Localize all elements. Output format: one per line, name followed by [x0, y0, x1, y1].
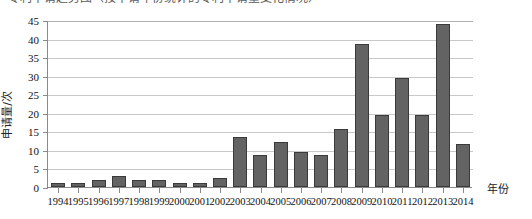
- x-axis-tick-label: 2001: [189, 196, 210, 207]
- x-axis-tick-label: 2010: [371, 196, 392, 207]
- y-axis-tick-label: 0: [34, 182, 40, 194]
- x-axis-tick-label: 2003: [230, 196, 251, 207]
- bar-slot: [230, 20, 250, 187]
- bar[interactable]: [173, 183, 187, 187]
- bar-slot: [271, 20, 291, 187]
- y-axis-tick-label: 40: [28, 34, 39, 46]
- bar-slot: [311, 20, 331, 187]
- bar[interactable]: [92, 180, 106, 187]
- bar-slot: [48, 20, 68, 187]
- bar[interactable]: [314, 155, 328, 187]
- x-axis-tick-label: 1994: [48, 196, 69, 207]
- bar[interactable]: [51, 183, 65, 187]
- bar-slot: [190, 20, 210, 187]
- bar-slot: [453, 20, 473, 187]
- x-axis-tick: [261, 188, 262, 193]
- x-axis-tick: [402, 188, 403, 193]
- bar-slot: [210, 20, 230, 187]
- bar-slot: [129, 20, 149, 187]
- y-axis-tick-label: 30: [28, 71, 39, 83]
- x-axis-tick-label: 2009: [351, 196, 372, 207]
- bar-slot: [352, 20, 372, 187]
- bars-group: [48, 20, 473, 187]
- x-axis-tick-label: 1996: [88, 196, 109, 207]
- y-axis-tick-label: 35: [28, 52, 39, 64]
- x-axis-tick: [180, 188, 181, 193]
- bar[interactable]: [193, 183, 207, 187]
- bar[interactable]: [253, 155, 267, 187]
- bar-slot: [68, 20, 88, 187]
- y-axis-tick-label: 5: [34, 163, 40, 175]
- bar[interactable]: [213, 178, 227, 187]
- y-axis-tick-label: 45: [28, 15, 39, 27]
- x-axis-tick-label: 2006: [290, 196, 311, 207]
- x-axis-tick: [422, 188, 423, 193]
- x-axis-tick: [240, 188, 241, 193]
- bar-slot: [412, 20, 432, 187]
- x-axis-tick-label: 2007: [311, 196, 332, 207]
- x-axis-tick: [58, 188, 59, 193]
- x-axis-tick-label: 1995: [68, 196, 89, 207]
- x-axis-tick: [341, 188, 342, 193]
- x-axis-tick-label: 2005: [270, 196, 291, 207]
- bar[interactable]: [395, 78, 409, 187]
- bar[interactable]: [355, 44, 369, 187]
- plot-area: 051015202530354045 199419951996199719981…: [47, 21, 472, 188]
- y-axis-tick: [43, 188, 48, 189]
- x-axis-tick: [443, 188, 444, 193]
- y-axis-tick-label: 20: [28, 108, 39, 120]
- bar[interactable]: [294, 152, 308, 187]
- bar[interactable]: [112, 176, 126, 187]
- x-axis-tick-label: 2004: [250, 196, 271, 207]
- y-axis-tick-label: 25: [28, 89, 39, 101]
- figure-caption-text: 专利申请趋势图（按申请年份统计的专利申请量变化情况）: [8, 0, 320, 5]
- x-axis-tick-label: 1997: [108, 196, 129, 207]
- y-axis-title: 申请量/次: [0, 91, 14, 139]
- x-axis-tick: [301, 188, 302, 193]
- bar[interactable]: [456, 144, 470, 187]
- x-axis-tick: [321, 188, 322, 193]
- x-axis-tick-label: 1999: [149, 196, 170, 207]
- bar[interactable]: [375, 115, 389, 187]
- bar[interactable]: [415, 115, 429, 187]
- bar[interactable]: [274, 142, 288, 187]
- x-axis-tick: [139, 188, 140, 193]
- bar-slot: [433, 20, 453, 187]
- bar[interactable]: [132, 180, 146, 187]
- bar[interactable]: [334, 129, 348, 187]
- bar-slot: [88, 20, 108, 187]
- x-axis-tick: [200, 188, 201, 193]
- bar-slot: [109, 20, 129, 187]
- x-axis-tick-label: 2014: [452, 196, 473, 207]
- figure-caption-strip: 专利申请趋势图（按申请年份统计的专利申请量变化情况）: [0, 0, 532, 9]
- y-axis-tick-label: 15: [28, 126, 39, 138]
- x-axis-tick: [119, 188, 120, 193]
- bar[interactable]: [152, 180, 166, 187]
- x-axis-tick: [99, 188, 100, 193]
- x-axis-title: 年份: [487, 180, 509, 196]
- bar[interactable]: [233, 137, 247, 187]
- bar-slot: [392, 20, 412, 187]
- x-axis-tick-label: 2008: [331, 196, 352, 207]
- x-axis-tick-label: 2013: [432, 196, 453, 207]
- bar-chart: 申请量/次 年份 051015202530354045 199419951996…: [0, 10, 532, 219]
- bar-slot: [149, 20, 169, 187]
- x-axis-tick: [159, 188, 160, 193]
- x-axis-tick: [220, 188, 221, 193]
- bar[interactable]: [436, 24, 450, 187]
- x-axis-tick-label: 2000: [169, 196, 190, 207]
- bar-slot: [372, 20, 392, 187]
- bar[interactable]: [71, 183, 85, 187]
- x-axis-tick: [78, 188, 79, 193]
- x-axis-tick: [281, 188, 282, 193]
- y-axis-tick-label: 10: [28, 145, 39, 157]
- x-axis-tick-label: 1998: [129, 196, 150, 207]
- x-axis-tick-label: 2002: [210, 196, 231, 207]
- bar-slot: [169, 20, 189, 187]
- bar-slot: [331, 20, 351, 187]
- x-axis-tick: [382, 188, 383, 193]
- x-axis-tick-label: 2011: [392, 196, 413, 207]
- x-axis-tick: [362, 188, 363, 193]
- x-axis-tick: [463, 188, 464, 193]
- bar-slot: [291, 20, 311, 187]
